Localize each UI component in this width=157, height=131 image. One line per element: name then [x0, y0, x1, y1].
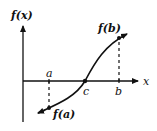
label-fb: f(b)	[97, 22, 121, 35]
point-fb	[117, 36, 121, 40]
ivt-diagram: f(x) x a b c f(a) f(b)	[0, 0, 157, 131]
label-a: a	[46, 67, 53, 80]
label-fa: f(a)	[52, 108, 75, 121]
y-axis-label: f(x)	[10, 9, 33, 22]
label-b: b	[115, 85, 122, 98]
x-axis-label: x	[143, 75, 150, 88]
function-curve-start-arrow	[38, 110, 45, 113]
label-c: c	[83, 85, 89, 98]
point-c	[83, 79, 87, 83]
point-fa	[47, 106, 51, 110]
